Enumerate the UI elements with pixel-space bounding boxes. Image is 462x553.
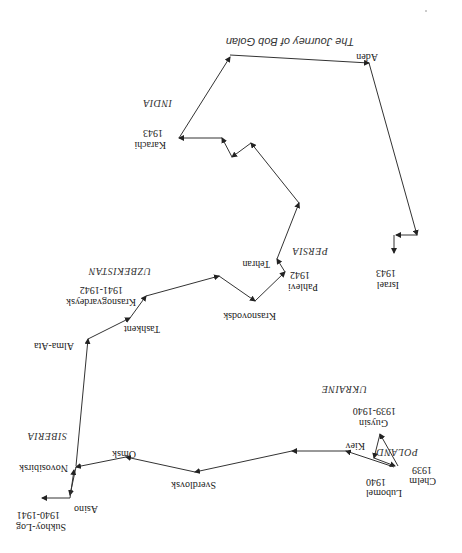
city-krasnogvardeysk: Krasnogvardeysk <box>66 297 136 308</box>
route-karachi-north <box>179 57 230 138</box>
year-israel: 1943 <box>376 268 396 279</box>
route-zigzag-2 <box>222 138 232 157</box>
region-india: INDIA <box>142 98 173 109</box>
route-north-to-zigzag <box>251 143 299 203</box>
city-krasnovodsk: Krasnovodsk <box>223 311 276 322</box>
city-omsk: Omsk <box>112 449 136 460</box>
city-chelm: Chelm <box>409 476 436 487</box>
city-pahlevi: Pahlevi <box>288 282 318 293</box>
route-asino-novosibirsk <box>70 470 74 498</box>
journey-map: The Journey of Bob Golan POLAND UKRAINE … <box>0 0 462 553</box>
city-guysin: Guysin <box>359 418 388 429</box>
route-to-aden <box>230 55 369 63</box>
city-aden: Aden <box>356 52 378 63</box>
city-asino: Asino <box>74 504 98 515</box>
route-to-krasnovodsk <box>219 276 255 301</box>
city-karachi: Karachi <box>134 140 166 151</box>
year-chelm: 1939 <box>412 465 432 476</box>
year-krasnogvardeysk: 1941-1942 <box>80 285 123 296</box>
city-alma-ata: Alma-Ata <box>33 341 74 352</box>
year-sukhoy-log: 1940-1941 <box>17 510 60 521</box>
route-lubomel-chelm <box>374 458 395 466</box>
route-novosibirsk-almaata <box>76 339 88 466</box>
route-pahlevi-tehran <box>277 259 285 272</box>
city-lubomel: Lubomel <box>366 488 402 499</box>
region-poland: POLAND <box>376 447 419 458</box>
city-tehran: Tehran <box>242 259 270 270</box>
stray-dot <box>425 10 427 12</box>
city-sukhoy-log: Sukhoy-Log <box>16 522 66 533</box>
year-guysin: 1939-1940 <box>353 406 396 417</box>
region-uzbekistan: UZBEKISTAN <box>88 266 151 277</box>
route-to-sverdlovsk <box>195 451 292 472</box>
city-israel: Israel <box>377 280 399 291</box>
year-karachi: 1943 <box>143 128 163 139</box>
route-zigzag-1 <box>232 143 251 157</box>
route-aden-south <box>369 63 417 235</box>
city-kiev: Kiev <box>346 441 365 452</box>
city-sverdlovsk: Sverdlovsk <box>171 480 216 491</box>
region-siberia: SIBERIA <box>27 431 67 442</box>
region-persia: PERSIA <box>292 246 329 257</box>
city-novosibirsk: Novosibirsk <box>19 463 68 474</box>
city-tashkent: Tashkent <box>124 324 160 335</box>
year-pahlevi: 1942 <box>290 270 310 281</box>
route-almaata-tashkent <box>88 318 130 339</box>
region-ukraine: UKRAINE <box>321 384 367 395</box>
route-krasnogvardeysk-east <box>146 276 219 296</box>
route-krasnovodsk-pahlevi <box>255 272 285 301</box>
year-lubomel: 1940 <box>366 477 386 488</box>
diagram-title: The Journey of Bob Golan <box>226 36 354 48</box>
